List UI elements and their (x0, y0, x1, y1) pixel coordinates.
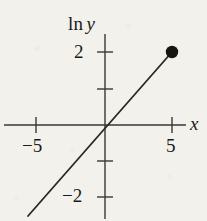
x-tick-label-5: 5 (166, 136, 176, 155)
plot-canvas (0, 0, 207, 221)
data-line (28, 52, 172, 216)
title-ln-text: ln (68, 13, 83, 34)
y-tick-label-2: 2 (74, 42, 84, 61)
endpoint-dot (166, 46, 178, 58)
title-y-variable: y (86, 13, 94, 34)
semilog-plot-figure: lny x 2 −2 −5 5 (0, 0, 207, 221)
plot-title-ln-y: lny (68, 14, 95, 33)
x-tick-label-minus-5: −5 (22, 136, 42, 155)
y-tick-label-minus-2: −2 (62, 186, 82, 205)
x-axis-label: x (190, 114, 198, 133)
